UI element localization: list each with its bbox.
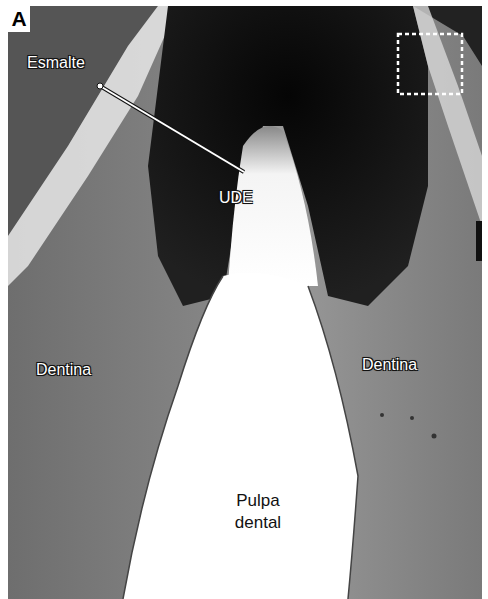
micrograph-panel: A Esmalte UDE Dentina Dentina Pulpa dent… [8, 6, 482, 599]
label-enamel: Esmalte [27, 54, 85, 72]
label-dentin-right: Dentina [362, 356, 417, 374]
edge-marker [476, 221, 482, 261]
label-dentin-left: Dentina [36, 361, 91, 379]
label-pulp-line2: dental [218, 512, 298, 534]
label-pulp: Pulpa dental [218, 490, 298, 534]
panel-label: A [8, 6, 30, 32]
label-dej: UDE [219, 189, 253, 207]
label-pulp-line1: Pulpa [218, 490, 298, 512]
